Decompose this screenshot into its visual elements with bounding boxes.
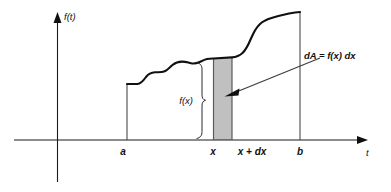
tick-label-x-plus-dx: x + dx (237, 146, 267, 157)
tick-label-b: b (297, 146, 303, 157)
annotation-label-dA: dA = f(x) dx (304, 50, 356, 61)
height-label-fx: f(x) (179, 95, 193, 106)
arrow-right-icon (357, 136, 368, 144)
tick-label-a: a (120, 146, 126, 157)
annotation-leader-line (235, 58, 320, 93)
tick-label-x: x (209, 146, 216, 157)
height-brace (197, 63, 206, 139)
shaded-strip-dA (214, 59, 233, 141)
arrow-up-icon (54, 12, 62, 23)
x-axis-label: t (366, 147, 369, 158)
y-axis-label: f(t) (64, 11, 76, 22)
figure-container: f(t) t a x x + dx b f(x) dA = f(x) dx (0, 0, 391, 192)
figure-canvas: f(t) t a x x + dx b f(x) dA = f(x) dx (0, 0, 391, 192)
